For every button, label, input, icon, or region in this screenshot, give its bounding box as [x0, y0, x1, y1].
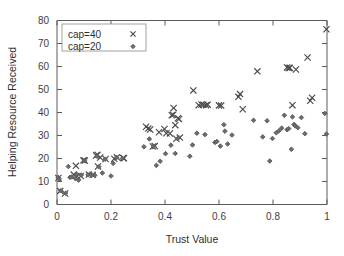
chart-legend: cap=40cap=20 — [62, 24, 146, 52]
y-tick-label: 50 — [38, 84, 50, 95]
legend-label-0: cap=40 — [68, 29, 102, 40]
plot-svg: 01020304050607080 00.20.40.60.81 cap=40c… — [0, 0, 344, 256]
scatter-chart-figure: 01020304050607080 00.20.40.60.81 cap=40c… — [0, 0, 344, 256]
x-tick-label: 1 — [324, 211, 330, 222]
legend-label-1: cap=20 — [68, 41, 102, 52]
x-tick-label: 0.6 — [212, 211, 226, 222]
x-axis-title: Trust Value — [166, 233, 219, 245]
x-tick-label: 0.8 — [266, 211, 280, 222]
y-tick-label: 30 — [38, 130, 50, 141]
y-tick-label: 70 — [38, 38, 50, 49]
y-tick-label: 60 — [38, 61, 50, 72]
y-tick-label: 40 — [38, 107, 50, 118]
y-tick-label: 20 — [38, 153, 50, 164]
x-tick-label: 0.2 — [104, 211, 118, 222]
y-tick-label: 0 — [43, 199, 49, 210]
x-tick-label: 0.4 — [158, 211, 172, 222]
y-tick-label: 80 — [38, 15, 50, 26]
x-tick-label: 0 — [54, 211, 60, 222]
y-tick-label: 10 — [38, 176, 50, 187]
y-axis-title: Helping Resource Received — [6, 47, 18, 177]
